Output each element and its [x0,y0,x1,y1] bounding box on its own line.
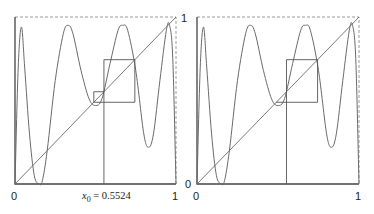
cobweb-figure: 0 1 1 x0 = 0.5524 0 0 1 [0,0,374,214]
right-x-min-label: 0 [193,190,199,202]
right-cobweb-panel [197,17,359,185]
cobweb-path [94,60,135,184]
map-curve [197,22,359,184]
left-x-min-label: 0 [11,190,17,202]
left-y-max-label: 1 [181,12,187,24]
right-x-max-label: 1 [355,190,361,202]
right-y-min-label: 0 [185,178,191,190]
map-curve [15,22,176,184]
x0-annotation: x0 = 0.5524 [81,190,131,204]
x0-value: = 0.5524 [91,190,132,201]
left-x-max-label: 1 [172,190,178,202]
cobweb-path [276,60,317,184]
diagonal-line [197,17,359,184]
left-cobweb-panel [15,17,176,185]
diagonal-line [15,17,176,184]
